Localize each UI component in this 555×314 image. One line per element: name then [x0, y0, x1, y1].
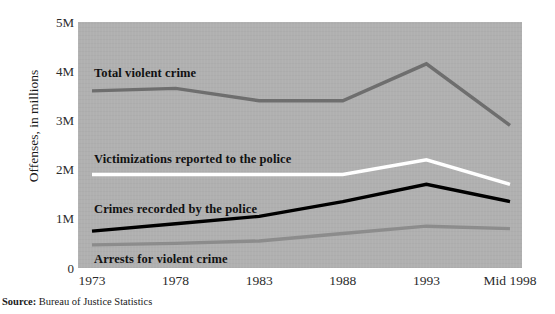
x-axis: 19731978198319881993Mid 1998	[0, 273, 555, 293]
x-axis-tick-label: 1993	[413, 273, 440, 289]
series-label: Victimizations reported to the police	[94, 152, 291, 167]
x-axis-tick-label: 1988	[329, 273, 356, 289]
x-axis-tick-label: 1978	[162, 273, 189, 289]
series-label: Arrests for violent crime	[94, 252, 228, 267]
source-note: Source: Bureau of Justice Statistics	[2, 296, 152, 307]
x-axis-tick-label: 1983	[246, 273, 273, 289]
series-label: Total violent crime	[94, 66, 196, 81]
source-label: Source:	[2, 296, 36, 307]
x-axis-tick-label: 1973	[79, 273, 106, 289]
chart-figure: 5M4M3M2M1M0 Offenses, in millions Total …	[0, 0, 555, 314]
series-label: Crimes recorded by the police	[94, 202, 257, 217]
x-axis-tick-label: Mid 1998	[484, 273, 537, 289]
source-value: Bureau of Justice Statistics	[39, 296, 152, 307]
series-line	[92, 226, 510, 245]
